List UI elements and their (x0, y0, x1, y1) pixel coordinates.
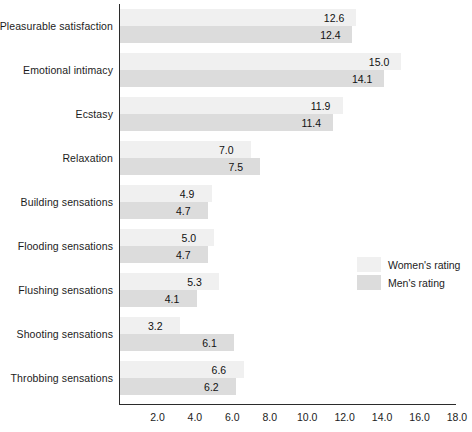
bar-group: Building sensations4.94.7 (0, 185, 472, 219)
category-label: Pleasurable satisfaction (0, 20, 113, 32)
category-label: Throbbing sensations (11, 372, 113, 384)
x-tick-label: 2.0 (150, 411, 165, 423)
bar-value-label: 11.9 (311, 100, 331, 112)
bar-women (120, 97, 343, 114)
legend-swatch (357, 257, 381, 272)
bar-men (120, 26, 352, 43)
x-tick-label: 18.0 (447, 411, 467, 423)
category-label: Shooting sensations (17, 328, 113, 340)
bar-women (120, 9, 356, 26)
bar-value-label: 4.7 (176, 249, 191, 261)
bar-women (120, 273, 219, 290)
category-label: Flooding sensations (18, 240, 113, 252)
plot-area: Pleasurable satisfaction12.612.4Emotiona… (0, 0, 472, 432)
x-tick-label: 12.0 (334, 411, 354, 423)
x-tick-label: 14.0 (372, 411, 392, 423)
bar-group: Throbbing sensations6.66.2 (0, 361, 472, 395)
bar-value-label: 12.6 (324, 12, 344, 24)
bar-value-label: 7.0 (219, 144, 234, 156)
x-tick-label: 8.0 (262, 411, 277, 423)
bar-men (120, 246, 208, 263)
bar-men (120, 70, 384, 87)
bar-women (120, 229, 214, 246)
legend-swatch (357, 275, 381, 290)
legend-label: Women's rating (388, 259, 460, 271)
bar-value-label: 14.1 (352, 73, 372, 85)
bar-value-label: 3.2 (148, 320, 163, 332)
bar-value-label: 12.4 (320, 29, 340, 41)
category-label: Relaxation (62, 152, 113, 164)
category-label: Ecstasy (76, 108, 113, 120)
bar-women (120, 53, 401, 70)
bar-value-label: 11.4 (301, 117, 321, 129)
legend-label: Men's rating (388, 277, 445, 289)
bar-value-label: 6.2 (204, 381, 219, 393)
bar-value-label: 5.3 (187, 276, 202, 288)
bar-value-label: 6.1 (202, 337, 217, 349)
value-axis-line (119, 404, 456, 405)
bar-value-label: 4.1 (165, 293, 180, 305)
category-label: Emotional intimacy (23, 64, 113, 76)
bar-group: Pleasurable satisfaction12.612.4 (0, 9, 472, 43)
bar-value-label: 4.7 (176, 205, 191, 217)
x-tick-label: 6.0 (225, 411, 240, 423)
x-tick-label: 4.0 (188, 411, 203, 423)
bar-value-label: 6.6 (212, 364, 227, 376)
category-label: Building sensations (21, 196, 113, 208)
bar-value-label: 15.0 (369, 56, 389, 68)
bar-group: Shooting sensations3.26.1 (0, 317, 472, 351)
bar-group: Relaxation7.07.5 (0, 141, 472, 175)
bar-chart: Pleasurable satisfaction12.612.4Emotiona… (0, 0, 472, 432)
bar-men (120, 202, 208, 219)
x-tick-label: 16.0 (409, 411, 429, 423)
bar-men (120, 290, 197, 307)
bar-group: Emotional intimacy15.014.1 (0, 53, 472, 87)
bar-value-label: 7.5 (228, 161, 243, 173)
bar-women (120, 185, 212, 202)
bar-group: Ecstasy11.911.4 (0, 97, 472, 131)
category-label: Flushing sensations (18, 284, 113, 296)
bar-value-label: 4.9 (180, 188, 195, 200)
bar-value-label: 5.0 (182, 232, 197, 244)
x-tick-label: 10.0 (297, 411, 317, 423)
